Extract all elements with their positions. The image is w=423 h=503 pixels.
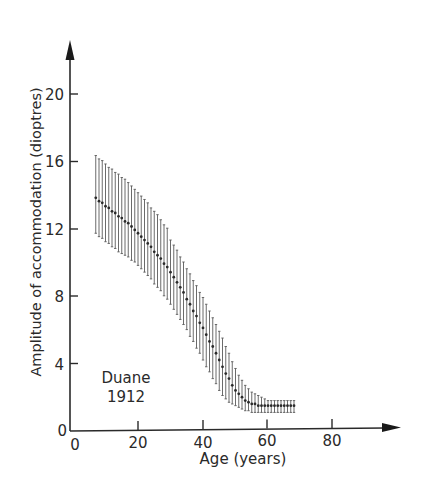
mean-point bbox=[260, 404, 263, 407]
error-bar bbox=[267, 401, 270, 413]
x-axis-title: Age (years) bbox=[200, 450, 287, 468]
error-bar bbox=[218, 331, 221, 390]
mean-point bbox=[166, 266, 169, 269]
mean-point bbox=[195, 315, 198, 318]
error-bar bbox=[270, 401, 273, 413]
mean-point bbox=[104, 205, 107, 208]
mean-point bbox=[286, 404, 289, 407]
mean-point bbox=[244, 399, 247, 402]
mean-point bbox=[270, 404, 273, 407]
error-bar bbox=[247, 389, 250, 411]
y-ticks bbox=[70, 94, 78, 364]
error-bar bbox=[101, 161, 104, 239]
y-axis-arrow-icon bbox=[66, 40, 75, 60]
mean-point bbox=[211, 345, 214, 348]
error-bar bbox=[286, 401, 289, 413]
error-bar bbox=[189, 274, 192, 337]
mean-point bbox=[176, 281, 179, 284]
mean-point bbox=[169, 271, 172, 274]
error-bar bbox=[195, 286, 198, 349]
mean-point bbox=[137, 232, 140, 235]
mean-point bbox=[172, 276, 175, 279]
mean-point bbox=[101, 201, 104, 204]
mean-point bbox=[198, 321, 201, 324]
mean-point bbox=[276, 404, 279, 407]
mean-point bbox=[241, 396, 244, 399]
error-bar bbox=[127, 183, 130, 257]
y-tick-label-0: 0 bbox=[57, 422, 67, 440]
mean-point bbox=[293, 404, 296, 407]
mean-point bbox=[228, 377, 231, 380]
mean-point bbox=[267, 404, 270, 407]
error-bar bbox=[185, 269, 188, 330]
mean-point bbox=[221, 365, 224, 368]
error-bar bbox=[228, 353, 231, 402]
error-bar bbox=[254, 394, 257, 413]
mean-point bbox=[289, 404, 292, 407]
mean-point bbox=[111, 210, 114, 213]
x-tick-label-60: 60 bbox=[257, 432, 276, 450]
error-bar bbox=[263, 399, 266, 413]
mean-point bbox=[156, 254, 159, 257]
error-bar bbox=[120, 178, 123, 254]
error-bar bbox=[169, 240, 172, 304]
error-bar bbox=[211, 318, 214, 379]
mean-point bbox=[257, 404, 260, 407]
y-tick-label-8: 8 bbox=[54, 288, 64, 306]
mean-point bbox=[182, 291, 185, 294]
error-bar bbox=[94, 156, 97, 234]
mean-point bbox=[114, 212, 117, 215]
error-bar bbox=[146, 203, 149, 276]
mean-point bbox=[120, 217, 123, 220]
error-bar bbox=[140, 196, 143, 269]
error-bar bbox=[172, 245, 175, 309]
error-bar bbox=[111, 169, 114, 247]
error-bar bbox=[273, 401, 276, 413]
error-bar bbox=[166, 228, 169, 299]
x-tick-label-80: 80 bbox=[322, 432, 341, 450]
error-bar bbox=[283, 401, 286, 413]
y-tick-label-16: 16 bbox=[45, 153, 64, 171]
error-bar bbox=[221, 338, 224, 395]
error-bar bbox=[280, 401, 283, 413]
error-bar bbox=[289, 401, 292, 413]
error-bar bbox=[176, 250, 179, 314]
mean-point bbox=[234, 389, 237, 392]
mean-point bbox=[202, 327, 205, 330]
error-bar bbox=[276, 401, 279, 413]
mean-point bbox=[107, 207, 110, 210]
error-bar bbox=[124, 179, 127, 255]
mean-point bbox=[224, 372, 227, 375]
mean-point bbox=[185, 298, 188, 301]
mean-point bbox=[130, 225, 133, 228]
mean-point bbox=[208, 340, 211, 343]
y-tick-label-4: 4 bbox=[54, 356, 64, 374]
error-bar bbox=[104, 164, 107, 242]
x-axis-arrow-icon bbox=[382, 423, 401, 432]
error-bar bbox=[153, 211, 156, 284]
annotation-year: 1912 bbox=[107, 388, 145, 406]
error-bar bbox=[202, 297, 205, 360]
mean-point bbox=[189, 303, 192, 306]
error-bar bbox=[293, 401, 296, 413]
error-bar bbox=[163, 225, 166, 296]
mean-point bbox=[140, 235, 143, 238]
mean-point bbox=[146, 242, 149, 245]
error-bar bbox=[114, 172, 117, 248]
error-bar bbox=[150, 208, 153, 279]
error-bar bbox=[143, 199, 146, 272]
error-bar bbox=[137, 193, 140, 266]
mean-point bbox=[153, 250, 156, 253]
error-bar bbox=[156, 215, 159, 288]
error-bar bbox=[260, 397, 263, 412]
mean-point bbox=[127, 222, 130, 225]
mean-point bbox=[98, 200, 101, 203]
mean-point bbox=[124, 220, 127, 223]
mean-point bbox=[179, 286, 182, 289]
y-tick-label-12: 12 bbox=[45, 221, 64, 239]
error-bar bbox=[208, 311, 211, 372]
mean-point bbox=[117, 215, 120, 218]
x-axis bbox=[70, 428, 385, 431]
mean-point bbox=[273, 404, 276, 407]
error-bar bbox=[231, 362, 234, 404]
